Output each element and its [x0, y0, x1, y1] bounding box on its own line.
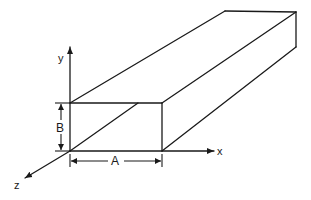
bottom-right-long-edge [162, 47, 296, 151]
dimension-b: B [55, 103, 70, 151]
b-dimension-label: B [56, 121, 64, 135]
z-axis-label: z [14, 179, 20, 191]
waveguide-diagram: y x z B A [0, 0, 311, 200]
top-right-long-edge [162, 12, 296, 103]
a-dimension-label: A [111, 154, 119, 168]
top-left-long-edge [70, 11, 225, 103]
z-axis [25, 151, 70, 178]
bottom-left-long-edge [70, 103, 138, 151]
dimension-a: A [70, 154, 162, 168]
coordinate-axes: y x z [14, 47, 223, 191]
y-axis-label: y [58, 52, 64, 64]
waveguide-box [70, 11, 296, 151]
x-axis-label: x [217, 145, 223, 157]
back-top-edge [225, 11, 296, 12]
